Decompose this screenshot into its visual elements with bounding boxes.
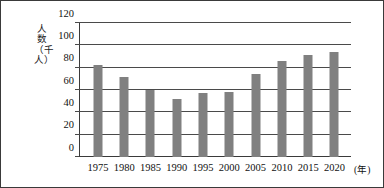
y-axis-tick-mark <box>75 156 79 157</box>
y-axis-tick-label: 0 <box>69 141 74 152</box>
y-axis-tick-mark <box>75 111 79 112</box>
y-axis-tick-label: 120 <box>58 7 74 18</box>
gridline <box>79 22 351 23</box>
x-axis-tick-label: 2015 <box>298 162 319 173</box>
y-axis-title: 人数（千人） <box>34 13 50 66</box>
bar <box>120 77 129 157</box>
x-axis-tick-label: 2020 <box>324 162 345 173</box>
bar <box>277 61 286 157</box>
bar <box>172 99 181 157</box>
x-axis-tick-label: 2005 <box>245 162 266 173</box>
x-axis-tick-label: 2000 <box>219 162 240 173</box>
x-axis-tick-label: 1980 <box>114 162 135 173</box>
x-axis-tick-label: 2010 <box>271 162 292 173</box>
y-axis-title-text: 人数（千人） <box>34 24 54 66</box>
x-axis-unit-label: (年) <box>354 162 370 176</box>
x-axis-tick-label: 1995 <box>193 162 214 173</box>
bar <box>225 92 234 157</box>
y-axis-tick-label: 40 <box>64 96 75 107</box>
y-axis-tick-mark <box>75 134 79 135</box>
x-axis-tick-label: 1975 <box>87 162 108 173</box>
x-axis-tick-label: 1985 <box>140 162 161 173</box>
bar <box>304 55 313 157</box>
bar <box>330 52 339 157</box>
bar <box>199 93 208 157</box>
bar <box>93 65 102 157</box>
chart-figure: 人数（千人） 020406080100120 19751980198519901… <box>0 0 384 188</box>
y-axis-tick-mark <box>75 67 79 68</box>
y-axis-tick-mark <box>75 89 79 90</box>
y-axis-tick-label: 80 <box>64 52 75 63</box>
gridline <box>79 44 351 45</box>
x-axis-tick-label: 1990 <box>166 162 187 173</box>
y-axis-line <box>79 23 80 157</box>
bar <box>146 90 155 157</box>
bar <box>251 74 260 157</box>
y-axis-tick-mark <box>75 22 79 23</box>
y-axis-tick-label: 60 <box>64 74 75 85</box>
y-axis-tick-label: 100 <box>58 29 74 40</box>
y-axis-tick-mark <box>75 44 79 45</box>
y-axis-tick-label: 20 <box>64 119 75 130</box>
plot-area: 020406080100120 197519801985199019952000… <box>79 23 351 157</box>
